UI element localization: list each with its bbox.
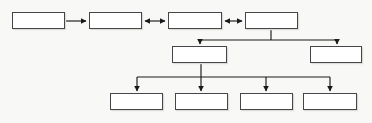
node-top-3[interactable] (168, 12, 222, 29)
node-bot-1[interactable] (110, 93, 163, 110)
node-bot-4[interactable] (303, 93, 357, 110)
node-top-1[interactable] (12, 12, 65, 29)
node-top-4[interactable] (245, 12, 298, 29)
node-mid-2[interactable] (310, 46, 362, 63)
node-top-2[interactable] (89, 12, 142, 29)
node-bot-3[interactable] (240, 93, 293, 110)
node-bot-2[interactable] (175, 93, 228, 110)
flowchart-diagram (0, 0, 372, 123)
node-mid-1[interactable] (172, 46, 227, 63)
